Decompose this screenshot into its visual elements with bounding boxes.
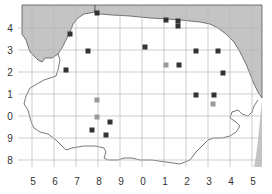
site-marker xyxy=(90,128,95,133)
x-label: 5 xyxy=(250,176,256,187)
site-marker xyxy=(164,63,169,68)
x-label: 6 xyxy=(52,176,58,187)
site-marker xyxy=(176,24,181,29)
site-marker xyxy=(194,93,199,98)
site-marker xyxy=(211,102,216,107)
x-label: 9 xyxy=(118,176,124,187)
y-label: 4 xyxy=(7,23,13,34)
x-label: 5 xyxy=(30,176,36,187)
site-marker xyxy=(108,120,113,125)
y-label: 3 xyxy=(7,45,13,56)
site-marker xyxy=(95,98,100,103)
x-axis: 5 6 7 8 9 0 1 2 3 4 5 xyxy=(30,176,256,187)
map: 4 3 2 1 0 9 8 5 6 7 8 9 0 1 2 3 4 5 xyxy=(0,0,272,194)
y-label: 0 xyxy=(7,111,13,122)
site-marker xyxy=(216,49,221,54)
site-marker xyxy=(86,49,91,54)
site-marker xyxy=(68,32,73,37)
x-label: 4 xyxy=(228,176,234,187)
site-marker xyxy=(95,115,100,120)
x-label: 1 xyxy=(162,176,168,187)
y-label: 2 xyxy=(7,67,13,78)
y-axis: 4 3 2 1 0 9 8 xyxy=(7,23,13,166)
y-label: 8 xyxy=(7,155,13,166)
site-marker xyxy=(104,133,109,138)
site-marker xyxy=(95,11,100,16)
x-label: 7 xyxy=(74,176,80,187)
site-marker xyxy=(143,45,148,50)
y-label: 9 xyxy=(7,133,13,144)
site-marker xyxy=(194,49,199,54)
site-marker xyxy=(221,71,226,76)
site-marker xyxy=(64,68,69,73)
x-label: 8 xyxy=(96,176,102,187)
site-marker xyxy=(212,93,217,98)
x-label: 2 xyxy=(184,176,190,187)
site-marker xyxy=(176,19,181,24)
x-label: 3 xyxy=(206,176,212,187)
site-marker xyxy=(177,63,182,68)
site-marker xyxy=(164,18,169,23)
x-label: 0 xyxy=(140,176,146,187)
y-label: 1 xyxy=(7,89,13,100)
